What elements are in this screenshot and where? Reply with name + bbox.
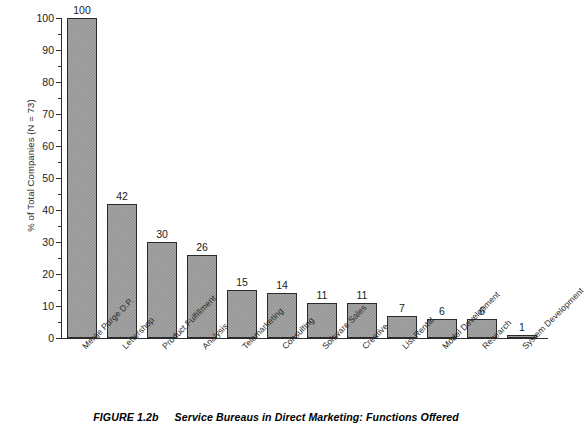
figure-caption: FIGURE 1.2bService Bureaus in Direct Mar… (0, 411, 552, 423)
bar-slot: 14 (262, 18, 302, 338)
bar-slot: 11 (302, 18, 342, 338)
bar-slot: 15 (222, 18, 262, 338)
plot-area: 0102030405060708090100 10042302615141111… (62, 18, 542, 338)
x-label-slot: Model Development (422, 342, 462, 412)
x-label-slot: Product Fulfillment (142, 342, 182, 412)
bar-value-label: 14 (276, 279, 288, 291)
x-label-slot: Research (462, 342, 502, 412)
x-label-slot: List Rental (382, 342, 422, 412)
bar-slot: 7 (382, 18, 422, 338)
y-tick-label: 100 (36, 12, 54, 24)
bar-value-label: 11 (357, 289, 368, 301)
y-tick-label: 50 (42, 172, 54, 184)
bar-value-label: 15 (236, 276, 248, 288)
x-label-slot: System Development (502, 342, 542, 412)
x-label-slot: Software Sales (302, 342, 342, 412)
x-label-slot: Creative (342, 342, 382, 412)
bar-value-label: 30 (156, 228, 168, 240)
y-tick-label: 10 (42, 300, 54, 312)
y-tick-label: 40 (42, 204, 54, 216)
x-axis-category-labels: Merge Purge D.P.LettershopProduct Fulfil… (62, 342, 542, 412)
y-tick-label: 20 (42, 268, 54, 280)
y-tick-label: 90 (42, 44, 54, 56)
bar-value-label: 26 (196, 241, 208, 253)
x-label-slot: Lettershop (102, 342, 142, 412)
bar-slot: 1 (502, 18, 542, 338)
x-label-slot: Consulting (262, 342, 302, 412)
bar-value-label: 11 (317, 289, 328, 301)
bar-value-label: 6 (439, 305, 445, 317)
bar-value-label: 42 (116, 190, 128, 202)
bar-series: 100423026151411117661 (62, 18, 542, 338)
bar-value-label: 7 (399, 302, 405, 314)
bar-slot: 42 (102, 18, 142, 338)
bar-slot: 11 (342, 18, 382, 338)
bar-slot: 26 (182, 18, 222, 338)
bar-value-label: 100 (73, 4, 91, 16)
y-tick-label: 60 (42, 140, 54, 152)
y-tick-label: 70 (42, 108, 54, 120)
x-label-slot: Merge Purge D.P. (62, 342, 102, 412)
bar-slot: 30 (142, 18, 182, 338)
bar-value-label: 1 (519, 321, 525, 333)
caption-text: Service Bureaus in Direct Marketing: Fun… (175, 411, 459, 423)
bar[interactable]: 100 (67, 18, 98, 338)
y-tick-label: 30 (42, 236, 54, 248)
caption-number: FIGURE 1.2b (93, 411, 158, 423)
y-tick-label: 80 (42, 76, 54, 88)
y-axis-title: % of Total Companies (N = 73) (25, 76, 36, 256)
bar-slot: 100 (62, 18, 102, 338)
x-label-slot: Telemarketing (222, 342, 262, 412)
x-label-slot: Analysis (182, 342, 222, 412)
y-tick-major (56, 338, 62, 339)
bar-slot: 6 (422, 18, 462, 338)
y-tick-label: 0 (48, 332, 54, 344)
